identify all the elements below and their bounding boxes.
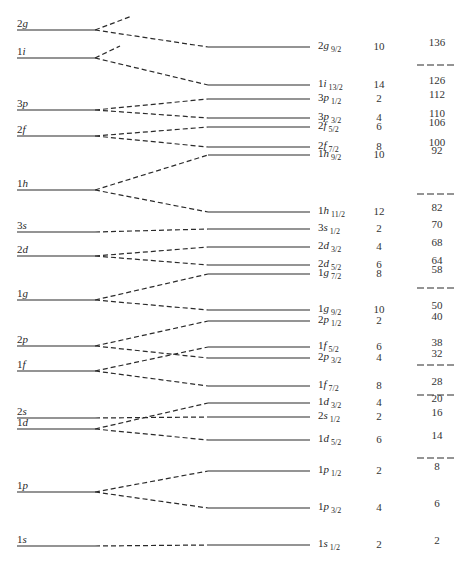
orbital-letter: p [23, 479, 29, 491]
total-angular-momentum: 1/2 [331, 97, 341, 106]
degeneracy-value: 8 [367, 380, 391, 391]
cumulative-nucleon-count: 14 [417, 430, 457, 441]
right-level-label: 2g9/2 [318, 40, 341, 51]
split-dashed-line [95, 545, 208, 546]
orbital-letter: p [324, 500, 330, 512]
total-angular-momentum: 7/2 [331, 272, 341, 281]
cumulative-nucleon-count: 106 [417, 117, 457, 128]
left-level-label: 1h [17, 178, 28, 189]
total-angular-momentum: 9/2 [331, 153, 341, 162]
right-level-label: 1g7/2 [318, 267, 341, 278]
orbital-letter: d [23, 243, 29, 255]
total-angular-momentum: 3/2 [331, 356, 341, 365]
right-level-label: 1s1/2 [318, 538, 340, 549]
orbital-letter: d [23, 416, 29, 428]
split-dashed-line [95, 471, 208, 492]
total-angular-momentum: 1/2 [330, 543, 340, 552]
degeneracy-value: 2 [367, 93, 391, 104]
split-dashed-line [95, 347, 208, 371]
cumulative-nucleon-count: 20 [417, 393, 457, 404]
degeneracy-value: 2 [367, 223, 391, 234]
degeneracy-value: 2 [367, 465, 391, 476]
total-angular-momentum: 1/2 [330, 415, 340, 424]
right-level-label: 3s1/2 [318, 222, 340, 233]
total-angular-momentum: 5/2 [329, 125, 339, 134]
orbital-letter: f [324, 378, 327, 390]
degeneracy-value: 10 [367, 41, 391, 52]
degeneracy-value: 6 [367, 434, 391, 445]
degeneracy-value: 4 [367, 502, 391, 513]
right-level-label: 2f5/2 [318, 120, 339, 131]
left-level-label: 1d [17, 417, 28, 428]
cumulative-nucleon-count: 112 [417, 89, 457, 100]
orbital-letter: p [324, 313, 330, 325]
split-dashed-line [95, 110, 208, 118]
degeneracy-value: 4 [367, 241, 391, 252]
upward-split-dashed-line [95, 16, 132, 30]
orbital-letter: p [23, 333, 29, 345]
right-level-label: 1h9/2 [318, 148, 341, 159]
total-angular-momentum: 9/2 [331, 45, 341, 54]
split-dashed-line [95, 136, 208, 147]
degeneracy-value: 14 [367, 79, 391, 90]
cumulative-nucleon-count: 6 [417, 498, 457, 509]
upward-split-dashed-line [95, 46, 120, 58]
orbital-letter: s [324, 409, 328, 421]
orbital-letter: g [324, 39, 330, 51]
right-level-label: 1d3/2 [318, 396, 341, 407]
orbital-letter: h [324, 147, 330, 159]
left-level-label: 2p [17, 334, 28, 345]
right-level-label: 1i13/2 [318, 78, 343, 89]
degeneracy-value: 4 [367, 352, 391, 363]
left-level-label: 1g [17, 288, 28, 299]
orbital-letter: f [324, 119, 327, 131]
orbital-letter: p [23, 97, 29, 109]
degeneracy-value: 2 [367, 315, 391, 326]
orbital-letter: p [324, 463, 330, 475]
cumulative-nucleon-count: 136 [417, 37, 457, 48]
split-dashed-line [95, 99, 208, 110]
split-dashed-line [95, 492, 208, 508]
cumulative-nucleon-count: 82 [417, 202, 457, 213]
total-angular-momentum: 1/2 [330, 227, 340, 236]
split-dashed-line [95, 321, 208, 346]
split-dashed-line [95, 30, 208, 47]
orbital-letter: g [324, 266, 330, 278]
orbital-letter: s [324, 537, 328, 549]
right-level-label: 1f7/2 [318, 379, 339, 390]
right-level-label: 1p3/2 [318, 501, 341, 512]
degeneracy-value: 8 [367, 268, 391, 279]
cumulative-nucleon-count: 70 [417, 219, 457, 230]
shell-model-diagram: 2g1i3p2f1h3s2d1g2p1f2s1d1p1s 2g9/2101361… [0, 0, 473, 564]
left-level-label: 2f [17, 124, 26, 135]
split-dashed-line [95, 190, 208, 212]
split-dashed-line [95, 300, 208, 310]
cumulative-nucleon-count: 126 [417, 75, 457, 86]
split-dashed-line [95, 127, 208, 136]
orbital-letter: f [23, 123, 26, 135]
total-angular-momentum: 11/2 [331, 210, 345, 219]
orbital-letter: p [324, 350, 330, 362]
cumulative-nucleon-count: 32 [417, 348, 457, 359]
right-level-label: 1d5/2 [318, 433, 341, 444]
orbital-letter: g [23, 287, 29, 299]
total-angular-momentum: 1/2 [331, 469, 341, 478]
split-dashed-line [95, 429, 208, 440]
cumulative-nucleon-count: 8 [417, 461, 457, 472]
orbital-letter: d [324, 395, 330, 407]
orbital-letter: s [23, 219, 27, 231]
split-dashed-line [95, 371, 208, 386]
split-dashed-line [95, 274, 208, 300]
cumulative-nucleon-count: 68 [417, 237, 457, 248]
right-level-label: 2d3/2 [318, 240, 341, 251]
orbital-letter: d [324, 239, 330, 251]
left-level-label: 3p [17, 98, 28, 109]
right-level-label: 2s1/2 [318, 410, 340, 421]
orbital-letter: h [23, 177, 29, 189]
total-angular-momentum: 3/2 [331, 245, 341, 254]
orbital-letter: s [324, 221, 328, 233]
right-level-label: 3p1/2 [318, 92, 341, 103]
cumulative-nucleon-count: 2 [417, 535, 457, 546]
right-level-label: 2p3/2 [318, 351, 341, 362]
cumulative-nucleon-count: 58 [417, 264, 457, 275]
